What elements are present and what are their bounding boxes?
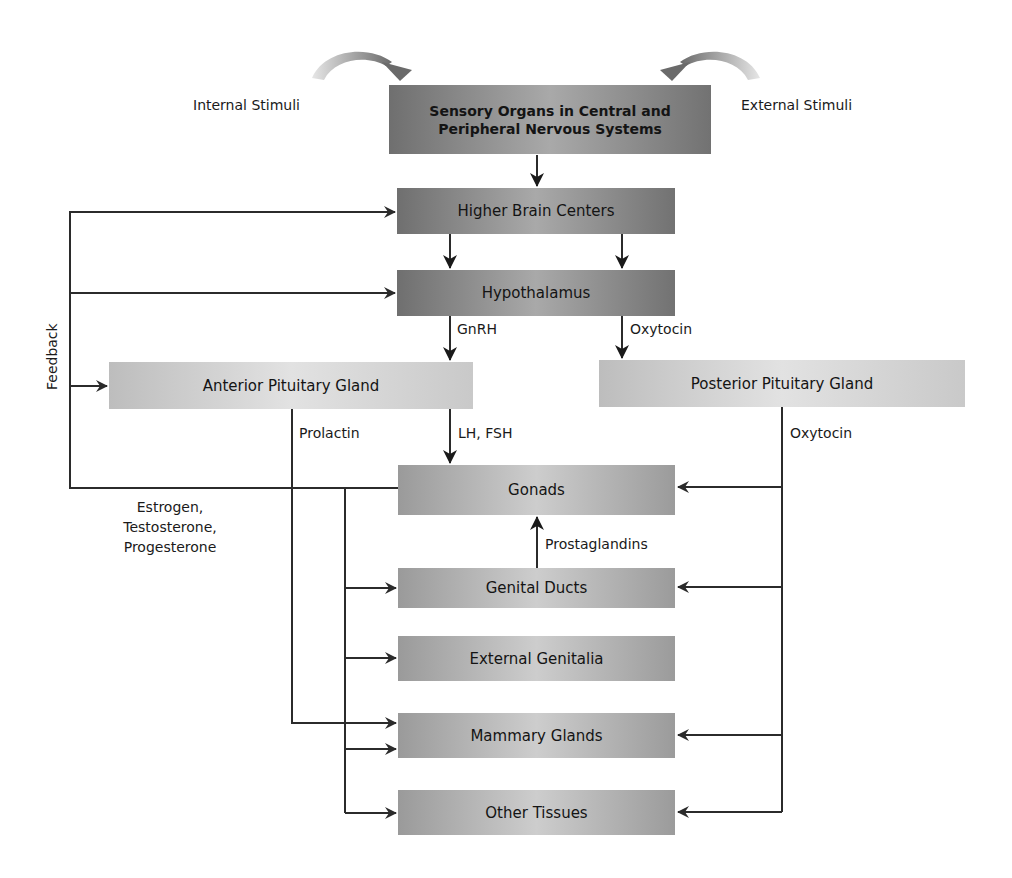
mammary-glands-node: Mammary Glands: [398, 713, 675, 758]
oxytocin-hypothalamus-label: Oxytocin: [630, 321, 692, 337]
genital-ducts-node: Genital Ducts: [398, 568, 675, 608]
lh-fsh-label: LH, FSH: [458, 425, 512, 441]
gonads-node: Gonads: [398, 465, 675, 515]
other-tissues-label: Other Tissues: [485, 804, 587, 822]
other-tissues-node: Other Tissues: [398, 790, 675, 835]
oxytocin-posterior-label: Oxytocin: [790, 425, 852, 441]
anterior-pituitary-label: Anterior Pituitary Gland: [203, 377, 380, 395]
mammary-glands-label: Mammary Glands: [470, 727, 602, 745]
sensory-organs-node: Sensory Organs in Central and Peripheral…: [389, 85, 711, 154]
higher-brain-centers-node: Higher Brain Centers: [397, 188, 675, 234]
external-stimuli-curved-arrow-icon: [660, 52, 760, 81]
genital-ducts-label: Genital Ducts: [486, 579, 588, 597]
gnrh-label: GnRH: [457, 321, 497, 337]
sensory-organs-label: Sensory Organs in Central and Peripheral…: [413, 102, 687, 138]
hypothalamus-label: Hypothalamus: [482, 284, 591, 302]
internal-stimuli-label: Internal Stimuli: [193, 97, 300, 113]
gonads-label: Gonads: [508, 481, 565, 499]
anterior-pituitary-node: Anterior Pituitary Gland: [109, 362, 473, 409]
reproductive-hormone-flow-diagram: Sensory Organs in Central and Peripheral…: [0, 0, 1012, 878]
sex-hormones-label: Estrogen, Testosterone, Progesterone: [110, 497, 230, 557]
internal-stimuli-curved-arrow-icon: [312, 52, 412, 81]
external-genitalia-node: External Genitalia: [398, 636, 675, 681]
prostaglandins-label: Prostaglandins: [545, 536, 648, 552]
hypothalamus-node: Hypothalamus: [397, 270, 675, 316]
higher-brain-centers-label: Higher Brain Centers: [457, 202, 614, 220]
posterior-pituitary-label: Posterior Pituitary Gland: [691, 375, 873, 393]
prolactin-label: Prolactin: [299, 425, 360, 441]
external-genitalia-label: External Genitalia: [469, 650, 603, 668]
external-stimuli-label: External Stimuli: [741, 97, 852, 113]
posterior-pituitary-node: Posterior Pituitary Gland: [599, 360, 965, 407]
feedback-label: Feedback: [44, 323, 60, 390]
